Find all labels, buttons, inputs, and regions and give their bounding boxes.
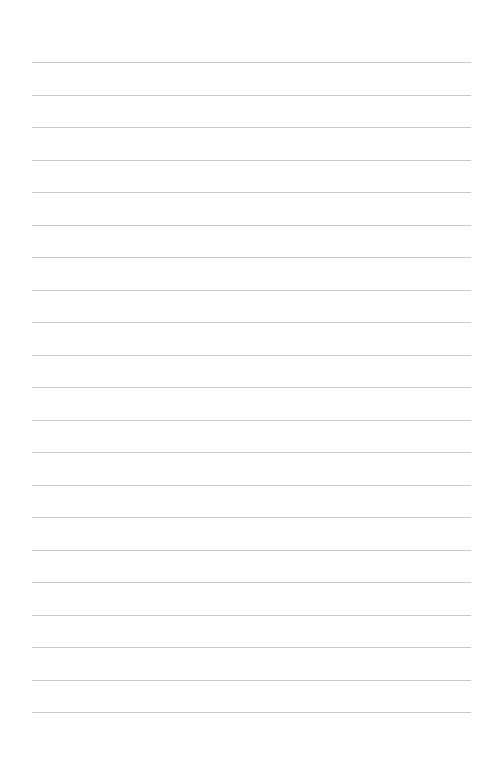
- ruled-line: [32, 582, 471, 583]
- ruled-line: [32, 95, 471, 96]
- ruled-line: [32, 680, 471, 681]
- ruled-line: [32, 485, 471, 486]
- ruled-line: [32, 517, 471, 518]
- ruled-line: [32, 615, 471, 616]
- ruled-line: [32, 550, 471, 551]
- ruled-line: [32, 355, 471, 356]
- ruled-line: [32, 62, 471, 63]
- ruled-line: [32, 192, 471, 193]
- ruled-line: [32, 712, 471, 713]
- ruled-line: [32, 257, 471, 258]
- ruled-line: [32, 127, 471, 128]
- ruled-line: [32, 225, 471, 226]
- ruled-line: [32, 452, 471, 453]
- ruled-line: [32, 387, 471, 388]
- ruled-line: [32, 647, 471, 648]
- ruled-line: [32, 160, 471, 161]
- ruled-line: [32, 290, 471, 291]
- ruled-line: [32, 322, 471, 323]
- ruled-line: [32, 420, 471, 421]
- lined-paper-page: [0, 0, 488, 769]
